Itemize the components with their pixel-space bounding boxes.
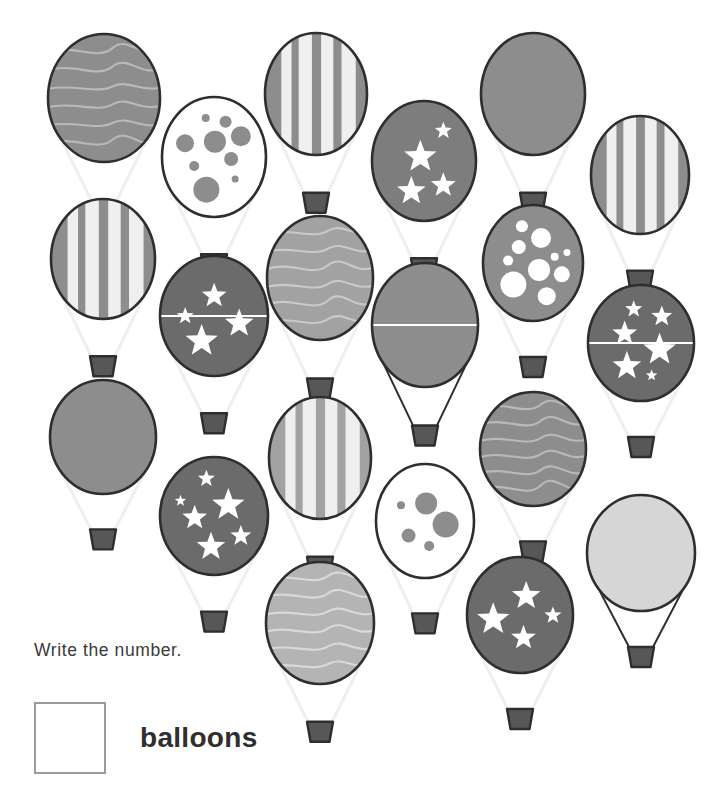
balloon-basket [628, 647, 654, 667]
balloon-stripes-left [51, 199, 155, 376]
answer-row: balloons [34, 702, 258, 774]
balloon-stars-bottom [467, 557, 573, 729]
balloon-dots-on-white [162, 97, 266, 274]
balloon-plain-medium-top [481, 33, 585, 213]
balloon-stars-lower-left [160, 457, 268, 632]
balloon-dots-on-gray [483, 205, 583, 377]
balloon-wavy-medium-mid [267, 216, 373, 398]
balloon-plain-split [372, 263, 478, 445]
balloon-basket [628, 437, 654, 457]
balloon-stars-top [372, 101, 476, 278]
balloon-illustration-group [0, 0, 715, 812]
balloon-stripes-top [265, 33, 367, 213]
balloon-plain-medium-left [50, 380, 156, 549]
balloon-dots-lower-mid [376, 464, 474, 633]
balloon-basket [201, 612, 227, 632]
answer-input-box[interactable] [34, 702, 106, 774]
answer-unit-label: balloons [140, 722, 258, 754]
prompt-text: Write the number. [34, 640, 454, 661]
balloon-stripes-right [591, 116, 689, 291]
balloon-basket [412, 425, 438, 445]
balloon-basket [307, 722, 333, 742]
prompt-area: Write the number. [34, 640, 454, 661]
balloon-basket [507, 709, 533, 729]
balloon-canvas [0, 0, 715, 812]
balloon-stars-upper-left [160, 256, 268, 433]
balloon-stripes-mid-low [269, 397, 371, 577]
balloon-wavy-dark [48, 34, 160, 222]
balloon-pattern-plain [372, 324, 478, 326]
balloon-plain-pale [587, 495, 695, 667]
balloon-basket [303, 193, 329, 213]
balloon-basket [90, 356, 116, 376]
balloon-basket [90, 529, 116, 549]
balloon-stars-right-mid [588, 285, 694, 457]
balloon-basket [201, 413, 227, 433]
balloon-basket [412, 613, 438, 633]
balloon-basket [520, 357, 546, 377]
worksheet-page: Write the number. balloons [0, 0, 715, 812]
balloon-basket [307, 378, 333, 398]
balloon-wavy-right-low [480, 392, 586, 561]
